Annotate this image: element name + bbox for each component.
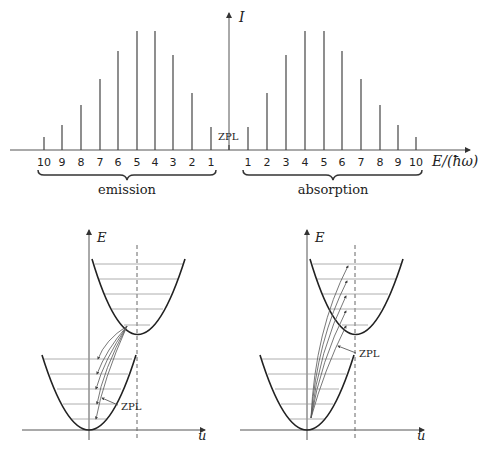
svg-text:10: 10: [409, 156, 423, 169]
x-axis-label: E/(ħω): [431, 153, 478, 169]
svg-text:5: 5: [134, 156, 141, 169]
spectrum-plot: I ZPL 10 9: [10, 9, 478, 197]
u-axis-label: u: [198, 428, 206, 443]
absorption-tick-labels: 1 2 3 4 5 6 7 8 9 10: [245, 156, 424, 169]
absorption-config-diagram: E u ZPL: [240, 230, 425, 443]
absorption-bars: [248, 31, 416, 150]
svg-text:10: 10: [37, 156, 51, 169]
emission-bars: [44, 31, 211, 150]
svg-text:1: 1: [245, 156, 252, 169]
emission-config-diagram: E u ZPL: [22, 230, 206, 443]
excited-levels: [95, 264, 183, 325]
svg-text:6: 6: [115, 156, 122, 169]
svg-text:5: 5: [321, 156, 328, 169]
e-axis-label: E: [96, 230, 107, 245]
ground-levels: [44, 359, 132, 419]
excited-levels: [313, 264, 401, 325]
svg-text:2: 2: [189, 156, 196, 169]
u-axis-label: u: [417, 428, 425, 443]
excited-parabola: [92, 259, 185, 335]
svg-text:8: 8: [78, 156, 85, 169]
zpl-label: ZPL: [359, 348, 380, 359]
absorption-label: absorption: [298, 182, 369, 197]
svg-text:1: 1: [208, 156, 215, 169]
svg-text:3: 3: [283, 156, 290, 169]
svg-text:7: 7: [358, 156, 365, 169]
e-axis-label: E: [314, 230, 325, 245]
svg-text:9: 9: [395, 156, 402, 169]
absorption-transitions: [311, 266, 348, 418]
ground-levels: [262, 359, 350, 419]
svg-text:4: 4: [152, 156, 159, 169]
zpl-label: ZPL: [218, 131, 239, 142]
svg-text:3: 3: [170, 156, 177, 169]
svg-text:9: 9: [59, 156, 66, 169]
zpl-label: ZPL: [121, 401, 142, 412]
emission-brace: [38, 170, 216, 180]
emission-label: emission: [98, 182, 157, 197]
zpl-pointer: [338, 346, 356, 353]
figure-canvas: I ZPL 10 9: [0, 0, 483, 452]
svg-text:2: 2: [264, 156, 271, 169]
svg-text:6: 6: [339, 156, 346, 169]
excited-parabola: [310, 259, 403, 335]
svg-text:7: 7: [97, 156, 104, 169]
svg-text:4: 4: [302, 156, 309, 169]
svg-text:8: 8: [377, 156, 384, 169]
emission-tick-labels: 10 9 8 7 6 5 4 3 2 1: [37, 156, 215, 169]
absorption-brace: [243, 170, 422, 180]
y-axis-label: I: [238, 9, 245, 25]
